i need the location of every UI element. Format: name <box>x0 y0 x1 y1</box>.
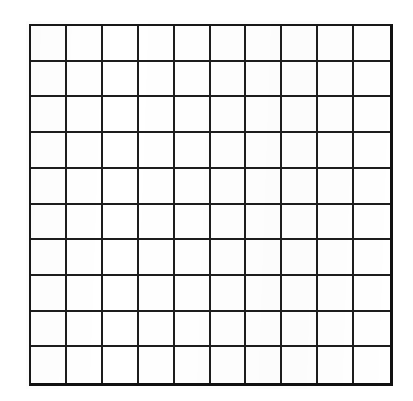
grid-cell[interactable] <box>211 312 247 348</box>
grid-cell[interactable] <box>139 169 175 205</box>
grid-cell[interactable] <box>318 312 354 348</box>
grid-cell[interactable] <box>246 347 282 383</box>
grid-cell[interactable] <box>103 169 139 205</box>
grid-cell[interactable] <box>175 169 211 205</box>
grid-cell[interactable] <box>282 240 318 276</box>
grid-cell[interactable] <box>354 240 390 276</box>
grid-cell[interactable] <box>282 97 318 133</box>
grid-cell[interactable] <box>282 26 318 62</box>
grid-cell[interactable] <box>139 240 175 276</box>
grid-cell[interactable] <box>318 97 354 133</box>
grid-cell[interactable] <box>31 169 67 205</box>
grid-cell[interactable] <box>139 312 175 348</box>
grid-cell[interactable] <box>318 240 354 276</box>
grid-cell[interactable] <box>354 133 390 169</box>
grid-cell[interactable] <box>354 169 390 205</box>
grid-cell[interactable] <box>67 312 103 348</box>
grid-cell[interactable] <box>175 205 211 241</box>
grid-cell[interactable] <box>103 312 139 348</box>
grid-cell[interactable] <box>318 276 354 312</box>
grid-cell[interactable] <box>318 133 354 169</box>
grid-cell[interactable] <box>211 276 247 312</box>
grid-cell[interactable] <box>211 347 247 383</box>
grid-cell[interactable] <box>103 62 139 98</box>
grid-cell[interactable] <box>354 205 390 241</box>
grid-cell[interactable] <box>246 169 282 205</box>
grid-cell[interactable] <box>354 26 390 62</box>
grid-cell[interactable] <box>67 62 103 98</box>
grid-cell[interactable] <box>67 133 103 169</box>
grid-cell[interactable] <box>139 26 175 62</box>
grid-cell[interactable] <box>246 312 282 348</box>
grid-cell[interactable] <box>354 312 390 348</box>
grid-cell[interactable] <box>175 312 211 348</box>
grid-cell[interactable] <box>246 97 282 133</box>
grid-cell[interactable] <box>282 133 318 169</box>
grid-cell[interactable] <box>246 240 282 276</box>
grid-cell[interactable] <box>282 62 318 98</box>
grid-cell[interactable] <box>31 62 67 98</box>
grid-cell[interactable] <box>282 169 318 205</box>
grid-cell[interactable] <box>31 312 67 348</box>
grid-cell[interactable] <box>318 169 354 205</box>
grid-cell[interactable] <box>175 133 211 169</box>
grid-cell[interactable] <box>175 26 211 62</box>
grid-cell[interactable] <box>318 205 354 241</box>
grid-cell[interactable] <box>175 347 211 383</box>
grid-cell[interactable] <box>103 347 139 383</box>
grid-cell[interactable] <box>354 276 390 312</box>
grid-cell[interactable] <box>246 26 282 62</box>
grid-cell[interactable] <box>139 276 175 312</box>
grid-cell[interactable] <box>318 347 354 383</box>
grid-cell[interactable] <box>103 97 139 133</box>
grid-cell[interactable] <box>354 97 390 133</box>
grid-cell[interactable] <box>175 97 211 133</box>
grid-cell[interactable] <box>31 133 67 169</box>
grid-cell[interactable] <box>67 240 103 276</box>
grid-cell[interactable] <box>211 133 247 169</box>
grid-cell[interactable] <box>211 97 247 133</box>
grid-cell[interactable] <box>211 169 247 205</box>
grid-cell[interactable] <box>31 240 67 276</box>
grid-cell[interactable] <box>282 205 318 241</box>
grid-cell[interactable] <box>282 312 318 348</box>
grid-cell[interactable] <box>67 26 103 62</box>
grid-cell[interactable] <box>31 26 67 62</box>
grid-cell[interactable] <box>211 240 247 276</box>
grid-cell[interactable] <box>67 97 103 133</box>
grid-cell[interactable] <box>31 205 67 241</box>
blank-grid[interactable] <box>29 24 393 386</box>
grid-cell[interactable] <box>282 276 318 312</box>
grid-cell[interactable] <box>175 276 211 312</box>
grid-cell[interactable] <box>282 347 318 383</box>
grid-cell[interactable] <box>354 347 390 383</box>
grid-cell[interactable] <box>318 26 354 62</box>
grid-cell[interactable] <box>175 62 211 98</box>
grid-cell[interactable] <box>31 276 67 312</box>
grid-cell[interactable] <box>318 62 354 98</box>
grid-cell[interactable] <box>246 205 282 241</box>
grid-cell[interactable] <box>103 240 139 276</box>
grid-cell[interactable] <box>246 276 282 312</box>
grid-cell[interactable] <box>354 62 390 98</box>
grid-cell[interactable] <box>139 62 175 98</box>
grid-cell[interactable] <box>67 347 103 383</box>
grid-cell[interactable] <box>103 133 139 169</box>
grid-cell[interactable] <box>211 62 247 98</box>
grid-cell[interactable] <box>211 26 247 62</box>
grid-cell[interactable] <box>103 205 139 241</box>
grid-cell[interactable] <box>103 276 139 312</box>
grid-cell[interactable] <box>139 205 175 241</box>
grid-cell[interactable] <box>103 26 139 62</box>
grid-cell[interactable] <box>139 97 175 133</box>
grid-cell[interactable] <box>67 276 103 312</box>
grid-cell[interactable] <box>139 347 175 383</box>
grid-cell[interactable] <box>246 62 282 98</box>
grid-cell[interactable] <box>139 133 175 169</box>
grid-cell[interactable] <box>246 133 282 169</box>
grid-cell[interactable] <box>31 97 67 133</box>
grid-cell[interactable] <box>211 205 247 241</box>
grid-cell[interactable] <box>67 205 103 241</box>
grid-cell[interactable] <box>175 240 211 276</box>
grid-cell[interactable] <box>67 169 103 205</box>
